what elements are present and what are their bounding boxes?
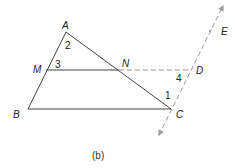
angle-2: 2 <box>65 40 71 51</box>
label-e: E <box>221 26 228 37</box>
angle-4: 4 <box>176 73 182 84</box>
label-m: M <box>33 64 42 75</box>
angle-1: 1 <box>165 90 171 101</box>
label-b: B <box>13 109 20 120</box>
geometry-diagram: A B C M N D E 2 3 4 1 (b) <box>0 0 235 168</box>
point-e-dot <box>209 30 211 32</box>
label-d: D <box>196 65 203 76</box>
figure-caption: (b) <box>92 150 104 161</box>
label-c: C <box>176 109 184 120</box>
label-n: N <box>122 58 130 69</box>
angle-3: 3 <box>55 59 61 70</box>
label-a: A <box>61 20 69 31</box>
